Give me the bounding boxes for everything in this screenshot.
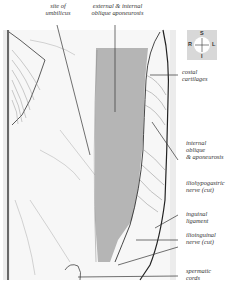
label-costal-cartilages: costal cartilages	[182, 68, 208, 82]
compass-left: L	[212, 41, 215, 47]
compass-inferior: I	[201, 53, 203, 59]
label-ilioinguinal-nerve: ilioinguinal nerve (cut)	[186, 231, 216, 245]
orientation-compass: S I R L	[187, 30, 217, 60]
label-iliohypogastric-nerve: iliohypogastric nerve (cut)	[186, 179, 225, 193]
label-spermatic-cords: spermatic cords	[186, 267, 211, 281]
label-oblique-aponeurosis: external & internal oblique aponeurosis	[85, 2, 150, 16]
label-site-of-umbilicus: site of umbilicus	[38, 2, 78, 16]
compass-right: R	[188, 41, 192, 47]
label-inguinal-ligament: inguinal ligament	[186, 210, 208, 224]
compass-superior: S	[200, 30, 204, 36]
label-internal-oblique: internal oblique & aponeurosis	[186, 139, 224, 160]
